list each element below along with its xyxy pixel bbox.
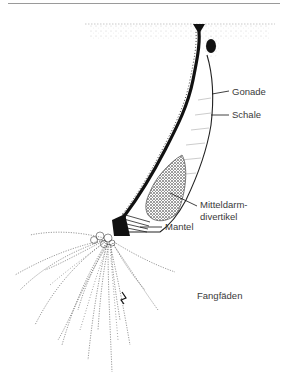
organism-illustration — [0, 0, 289, 389]
label-schale: Schale — [232, 109, 261, 120]
tentacles-dark — [50, 241, 118, 340]
gonad-blob — [202, 36, 220, 58]
label-gonade: Gonade — [232, 86, 266, 97]
mantle-dark — [112, 214, 130, 236]
water-surface — [85, 24, 275, 39]
label-mantel: Mantel — [165, 221, 194, 232]
label-mitteldarm-line1: Mitteldarm- — [200, 199, 248, 210]
label-mitteldarm-line2: divertikel — [200, 211, 238, 222]
tentacle-knot — [121, 292, 126, 304]
tentacles — [15, 232, 175, 372]
label-fangfaeden: Fangfäden — [197, 290, 242, 301]
